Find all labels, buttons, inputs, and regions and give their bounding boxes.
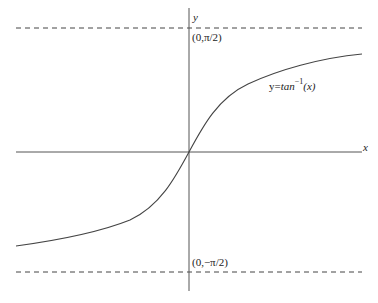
function-label: y=tan−1(x) [269, 81, 316, 92]
y-axis-label: y [193, 12, 198, 23]
upper-asymptote-label: (0,π/2) [192, 32, 222, 43]
lower-asymptote-label: (0,−π/2) [192, 257, 228, 268]
function-label-exponent: −1 [295, 77, 304, 86]
function-label-fn: tan [281, 80, 295, 92]
function-label-prefix: y= [269, 80, 281, 92]
diagram-canvas [0, 0, 378, 303]
x-axis-label: x [363, 142, 368, 153]
function-label-arg: (x) [303, 80, 315, 92]
